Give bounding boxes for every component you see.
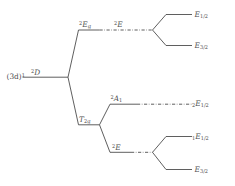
configuration-exponent: 1 bbox=[22, 72, 25, 78]
branch-line-e-to-e32-top bbox=[153, 30, 167, 46]
level-eg-subscript: g bbox=[88, 23, 91, 29]
energy-level-diagram: (3d)1 2D 2Eg 2E T2g 2A1 2E E1/2 E3/2 2E1… bbox=[0, 0, 235, 186]
label-term-2d: 2D bbox=[31, 69, 40, 76]
label-state-e32-bottom: E3/2 bbox=[195, 166, 209, 174]
state-e12-1-subscript: 1/2 bbox=[201, 135, 209, 141]
configuration-base: (3d) bbox=[7, 72, 22, 81]
branch-line-e-to-e32-bottom bbox=[153, 152, 167, 169]
state-e32-top-subscript: 3/2 bbox=[200, 44, 208, 50]
level-e-lower-symbol: E bbox=[115, 143, 120, 152]
branch-line-t2g-to-a1 bbox=[100, 104, 111, 125]
state-e32-bottom-subscript: 3/2 bbox=[200, 168, 208, 174]
branch-line-t2g-to-e-lower bbox=[100, 125, 111, 153]
label-level-t2g: T2g bbox=[79, 116, 90, 124]
level-a1-subscript: 1 bbox=[119, 97, 122, 103]
level-t2g-subscript: 2g bbox=[84, 118, 91, 124]
label-level-e-lower: 2E bbox=[112, 144, 121, 151]
state-e12-top-subscript: 1/2 bbox=[200, 13, 208, 19]
label-level-a1: 2A1 bbox=[111, 95, 123, 103]
branch-line-e-to-e12-top bbox=[153, 15, 167, 31]
state-e12-2-subscript: 1/2 bbox=[201, 102, 209, 108]
label-level-eg: 2Eg bbox=[79, 21, 91, 29]
branch-line-2d-to-t2g bbox=[68, 77, 79, 125]
label-state-e12-1: 1E1/2 bbox=[192, 133, 209, 141]
branch-line-2d-to-eg bbox=[68, 30, 79, 77]
label-state-e12-top: E1/2 bbox=[195, 11, 209, 19]
label-configuration: (3d)1 bbox=[7, 73, 25, 80]
label-state-e12-2: 2E1/2 bbox=[192, 100, 209, 108]
branch-line-e-to-e12-bottom bbox=[153, 137, 167, 153]
term-2d-symbol: D bbox=[34, 68, 40, 77]
level-e-upper-symbol: E bbox=[117, 20, 122, 29]
label-level-e-upper: 2E bbox=[114, 21, 123, 28]
label-state-e32-top: E3/2 bbox=[195, 42, 209, 50]
